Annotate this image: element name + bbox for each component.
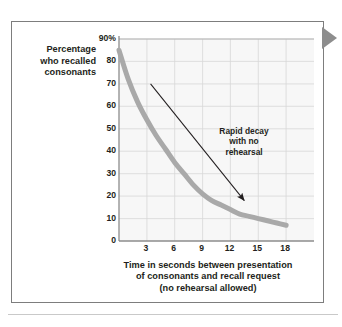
figure-root: Rapid decay with no rehearsal Percentage… bbox=[0, 0, 342, 327]
x-tick-label: 12 bbox=[225, 243, 235, 253]
annotation-line-2: with no bbox=[208, 136, 280, 146]
x-tick-label: 6 bbox=[171, 243, 176, 253]
x-axis-title: Time in seconds between presentation of … bbox=[96, 260, 320, 294]
y-tick-label: 30 bbox=[84, 168, 116, 178]
right-triangle-pointer-icon bbox=[322, 27, 337, 49]
y-tick-label: 60 bbox=[84, 100, 116, 110]
y-tick-label: 0 bbox=[84, 235, 116, 245]
x-axis-title-line-3: (no rehearsal allowed) bbox=[96, 283, 320, 294]
page-divider-rule bbox=[8, 314, 338, 315]
x-axis-tick-labels: 369121518 bbox=[118, 243, 314, 257]
annotation-line-1: Rapid decay bbox=[208, 126, 280, 136]
y-tick-label: 40 bbox=[84, 145, 116, 155]
x-tick-label: 15 bbox=[253, 243, 263, 253]
y-tick-label: 90% bbox=[84, 33, 116, 43]
annotation-line-3: rehearsal bbox=[208, 147, 280, 157]
x-tick-label: 18 bbox=[280, 243, 290, 253]
y-tick-label: 80 bbox=[84, 55, 116, 65]
y-tick-label: 50 bbox=[84, 123, 116, 133]
y-tick-label: 20 bbox=[84, 190, 116, 200]
x-tick-label: 3 bbox=[143, 243, 148, 253]
chart-annotation: Rapid decay with no rehearsal bbox=[208, 126, 280, 157]
y-tick-label: 10 bbox=[84, 213, 116, 223]
x-axis-title-line-1: Time in seconds between presentation bbox=[96, 260, 320, 271]
y-axis-tick-labels: 0102030405060708090% bbox=[84, 30, 116, 250]
x-axis-title-line-2: of consonants and recall request bbox=[96, 271, 320, 282]
x-tick-label: 9 bbox=[199, 243, 204, 253]
y-tick-label: 70 bbox=[84, 78, 116, 88]
